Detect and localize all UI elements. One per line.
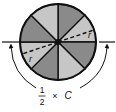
fraction-denominator: 2 [40, 97, 45, 107]
formula: 1 2 × C [39, 85, 73, 107]
multiply-operator: × [52, 91, 57, 101]
circumference-variable: C [64, 90, 72, 101]
circle-sector-diagram: r r 1 2 × C [0, 0, 116, 112]
fraction-numerator: 1 [40, 85, 45, 95]
